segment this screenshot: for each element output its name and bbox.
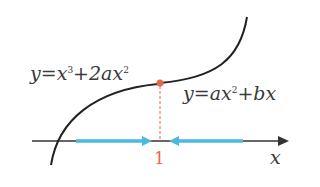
curve-right <box>160 17 247 83</box>
curve1-label: y=x3+2ax2 <box>30 62 129 84</box>
x-axis-arrow-icon <box>278 136 289 146</box>
right-arrow-head-icon <box>142 136 152 146</box>
curve-left <box>51 84 158 165</box>
curve2-label: y=ax2+bx <box>183 82 276 104</box>
tick-label-1: 1 <box>154 148 165 168</box>
junction-point <box>157 80 164 87</box>
x-axis-label: x <box>270 146 281 168</box>
left-arrow-head-icon <box>169 136 179 146</box>
